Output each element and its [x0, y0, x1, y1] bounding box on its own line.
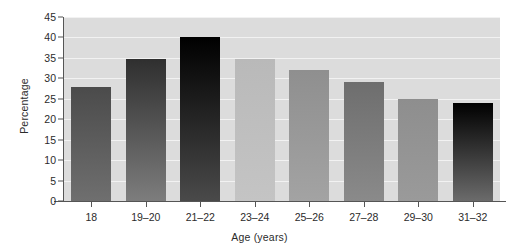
- x-tick-mark: [91, 202, 92, 207]
- bar[interactable]: [71, 87, 111, 201]
- x-axis-line: [54, 201, 506, 202]
- x-tick-label: 25–26: [295, 211, 324, 223]
- bar[interactable]: [235, 59, 275, 201]
- x-tick-mark: [200, 202, 201, 207]
- y-tick-label: 40: [15, 31, 56, 43]
- x-tick-label: 31–32: [458, 211, 487, 223]
- y-tick-mark: [58, 139, 63, 140]
- x-tick-mark: [418, 202, 419, 207]
- x-tick-label: 21–22: [186, 211, 215, 223]
- y-tick-mark: [58, 201, 63, 202]
- y-tick-mark: [58, 17, 63, 18]
- bar[interactable]: [344, 82, 384, 201]
- x-tick-label: 27–28: [349, 211, 378, 223]
- y-tick-label: 45: [15, 11, 56, 23]
- x-tick-mark: [364, 202, 365, 207]
- y-tick-label: 30: [15, 72, 56, 84]
- x-tick-label: 29–30: [404, 211, 433, 223]
- bar[interactable]: [453, 103, 493, 201]
- x-tick-label: 18: [85, 211, 97, 223]
- y-tick-label: 15: [15, 134, 56, 146]
- y-tick-label: 25: [15, 93, 56, 105]
- x-tick-label: 23–24: [240, 211, 269, 223]
- x-tick-mark: [255, 202, 256, 207]
- y-tick-label: 0: [15, 195, 56, 207]
- y-tick-label: 5: [15, 175, 56, 187]
- bar[interactable]: [289, 70, 329, 201]
- x-tick-label: 19–20: [131, 211, 160, 223]
- y-tick-mark: [58, 180, 63, 181]
- y-tick-label: 35: [15, 52, 56, 64]
- y-tick-mark: [58, 98, 63, 99]
- y-tick-mark: [58, 160, 63, 161]
- y-tick-mark: [58, 78, 63, 79]
- x-axis-title: Age (years): [0, 231, 519, 243]
- bar[interactable]: [398, 99, 438, 201]
- x-tick-mark: [146, 202, 147, 207]
- y-tick-label: 10: [15, 154, 56, 166]
- bar[interactable]: [126, 59, 166, 201]
- bar-chart-figure: Percentage 051015202530354045 1819–2021–…: [0, 0, 519, 252]
- bar[interactable]: [180, 37, 220, 201]
- y-tick-mark: [58, 57, 63, 58]
- plot-area: [64, 17, 500, 201]
- y-tick-mark: [58, 37, 63, 38]
- gridline: [64, 37, 500, 38]
- y-tick-label: 20: [15, 113, 56, 125]
- gridline: [64, 17, 500, 18]
- y-tick-mark: [58, 119, 63, 120]
- x-tick-mark: [473, 202, 474, 207]
- x-tick-mark: [309, 202, 310, 207]
